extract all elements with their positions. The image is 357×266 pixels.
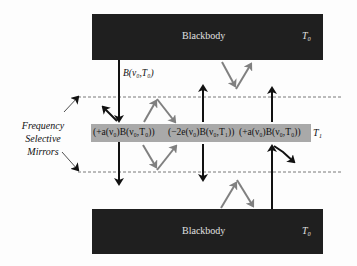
reflected-black-arrow-icon [103,107,117,121]
diagram-canvas: Blackbody T₀ Blackbody T₀ (+a(ν₀)B(ν₀,T₀… [0,0,357,266]
gray-bottom-down-arrow-icon [237,180,253,206]
gray-bottom-up-arrow-icon [221,183,236,208]
mirror-pointer-up-icon [64,97,78,112]
gray-top-up-arrow-icon [236,64,251,89]
gray-down-arrow-icon [157,99,175,122]
gray-up-arrow-2-icon [157,146,176,170]
gray-top-down-arrow-icon [222,62,235,86]
gray-down-arrow-2-icon [143,145,156,167]
mirror-pointer-down-icon [62,152,78,170]
right-reflected-arrow-icon [274,146,294,162]
gray-up-arrow-icon [144,101,156,122]
arrows-layer [0,0,357,266]
